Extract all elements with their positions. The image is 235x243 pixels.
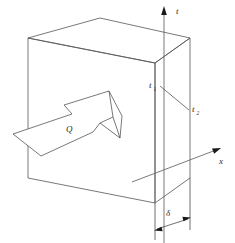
slab-top-face xyxy=(28,18,190,63)
x-axis-label: x xyxy=(218,156,223,166)
slab-right-face xyxy=(155,38,190,203)
x-axis xyxy=(132,148,221,182)
thickness-dimension xyxy=(154,178,191,240)
surface-temperature-2-label: t 2 xyxy=(192,104,200,116)
surface-temperature-1-base: t xyxy=(149,80,152,90)
temperature-axis-arrowhead xyxy=(161,6,167,15)
heat-flow-arrow-label: Q xyxy=(66,124,73,134)
surface-temperature-2-base: t xyxy=(192,104,195,114)
x-axis-line xyxy=(132,150,216,182)
figure-canvas: t x Q t 1 t 2 δ xyxy=(0,0,235,243)
x-axis-arrowhead xyxy=(212,148,221,154)
surface-temperature-1-subscript: 1 xyxy=(154,86,157,92)
thickness-dimension-label: δ xyxy=(166,208,171,218)
temperature-axis-label: t xyxy=(176,6,179,16)
diagram-svg: t x Q t 1 t 2 δ xyxy=(0,0,235,243)
surface-temperature-2-subscript: 2 xyxy=(197,110,200,116)
